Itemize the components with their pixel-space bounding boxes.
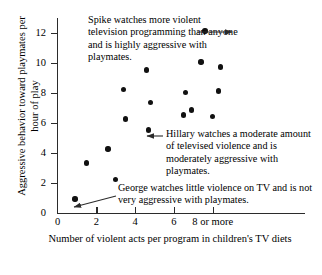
x-tick-mark (135, 207, 136, 213)
data-point-hillary (146, 127, 151, 132)
y-tick-mark (51, 183, 57, 184)
data-point (148, 100, 153, 105)
y-tick-mark (51, 33, 57, 34)
y-axis-title: Aggressive behavior toward playmates per… (15, 6, 41, 206)
x-tick-mark (213, 207, 214, 213)
data-point (183, 90, 188, 95)
data-point (218, 64, 223, 69)
data-point (123, 116, 128, 121)
annotation-spike: Spike watches more violent television pr… (88, 14, 238, 64)
x-axis-line (57, 213, 305, 214)
data-point (216, 88, 221, 93)
annotation-george: George watches little violence on TV and… (118, 182, 318, 207)
data-point-george (72, 196, 77, 201)
data-point (181, 112, 186, 117)
data-point (210, 114, 215, 119)
scatter-plot-figure: 02468101202468 or more Aggressive behavi… (0, 0, 322, 275)
data-point (121, 87, 126, 92)
y-tick-mark (51, 93, 57, 94)
arrow-george (74, 196, 116, 207)
annotation-hillary: Hillary watches a moderate amount of tel… (166, 128, 321, 178)
data-point (144, 67, 149, 72)
x-tick-mark (96, 207, 97, 213)
y-axis-line (57, 18, 58, 214)
y-tick-mark (51, 153, 57, 154)
x-tick-mark (174, 207, 175, 213)
data-point (105, 146, 110, 151)
y-tick-mark (51, 123, 57, 124)
y-tick-mark (51, 63, 57, 64)
data-point (84, 160, 89, 165)
x-axis-title: Number of violent acts per program in ch… (45, 232, 295, 245)
x-tick-label: 8 or more (173, 216, 253, 227)
data-point (189, 107, 194, 112)
